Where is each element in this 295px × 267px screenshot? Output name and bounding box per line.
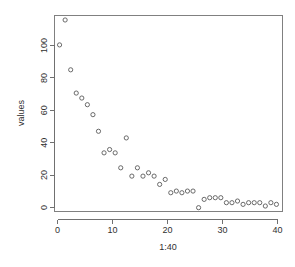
data-point	[152, 174, 156, 178]
x-tick-label-20: 20	[162, 225, 172, 235]
data-point	[91, 113, 95, 117]
data-point	[191, 189, 195, 193]
chart-figure: 0 20 40 60 80 100 0 10 20 30 40 1:40 val…	[0, 0, 295, 267]
data-point	[80, 96, 84, 100]
x-tick-label-40: 40	[272, 225, 282, 235]
y-axis: 0 20 40 60 80 100	[39, 38, 54, 210]
y-axis-title: values	[16, 99, 26, 126]
data-point	[108, 147, 112, 151]
data-point	[74, 91, 78, 95]
data-point	[57, 43, 61, 47]
data-point	[141, 174, 145, 178]
data-point	[169, 191, 173, 195]
data-point	[174, 189, 178, 193]
data-point	[247, 201, 251, 205]
data-point	[230, 201, 234, 205]
data-point	[252, 201, 256, 205]
y-tick-label-0: 0	[39, 205, 49, 210]
data-point	[63, 18, 67, 22]
data-point	[185, 189, 189, 193]
data-point	[241, 202, 245, 206]
y-tick-label-100: 100	[39, 38, 49, 53]
data-point-group	[57, 18, 278, 210]
data-point	[113, 151, 117, 155]
data-point	[130, 174, 134, 178]
y-tick-label-20: 20	[39, 170, 49, 180]
data-point	[258, 201, 262, 205]
data-point	[213, 196, 217, 200]
data-point	[196, 206, 200, 210]
data-point	[146, 171, 150, 175]
scatter-plot-canvas: 0 20 40 60 80 100 0 10 20 30 40 1:40 val…	[0, 0, 295, 267]
data-point	[124, 136, 128, 140]
data-point	[102, 151, 106, 155]
data-point	[158, 182, 162, 186]
y-tick-label-60: 60	[39, 105, 49, 115]
data-point	[224, 201, 228, 205]
y-tick-label-80: 80	[39, 73, 49, 83]
y-tick-label-40: 40	[39, 138, 49, 148]
x-axis-title: 1:40	[159, 242, 177, 252]
plot-frame	[55, 16, 283, 212]
x-tick-label-10: 10	[107, 225, 117, 235]
data-point	[269, 201, 273, 205]
data-point	[202, 197, 206, 201]
data-point	[180, 191, 184, 195]
data-point	[208, 196, 212, 200]
data-point	[235, 199, 239, 203]
data-point	[274, 202, 278, 206]
data-point	[85, 103, 89, 107]
data-point	[135, 166, 139, 170]
data-point	[96, 129, 100, 133]
x-tick-label-30: 30	[217, 225, 227, 235]
data-point	[163, 177, 167, 181]
x-axis: 0 10 20 30 40	[55, 220, 283, 236]
data-point	[69, 68, 73, 72]
x-tick-label-0: 0	[55, 225, 60, 235]
data-point	[119, 166, 123, 170]
data-point	[263, 204, 267, 208]
data-point	[219, 196, 223, 200]
